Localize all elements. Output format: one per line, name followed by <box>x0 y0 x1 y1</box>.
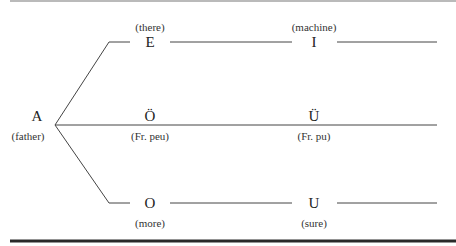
vowel-i-gloss: (machine) <box>292 21 337 33</box>
root-vowel: A <box>32 108 43 125</box>
vowel-i: I <box>312 34 317 51</box>
vowel-e: E <box>145 34 154 51</box>
vowel-o-umlaut-gloss: (Fr. peu) <box>131 130 169 142</box>
vowel-e-gloss: (there) <box>135 21 164 33</box>
vowel-u-umlaut-gloss: (Fr. pu) <box>298 130 331 142</box>
branch-lower-diagonal <box>55 125 109 203</box>
vowel-u-gloss: (sure) <box>301 217 327 229</box>
vowel-u-umlaut: Ü <box>309 108 320 125</box>
vowel-u: U <box>309 195 320 212</box>
branch-upper-diagonal <box>55 42 109 125</box>
root-gloss: (father) <box>12 130 45 142</box>
vowel-o-umlaut: Ö <box>145 108 156 125</box>
vowel-diagram-lines <box>0 0 456 246</box>
vowel-o: O <box>145 195 156 212</box>
vowel-o-gloss: (more) <box>135 217 165 229</box>
